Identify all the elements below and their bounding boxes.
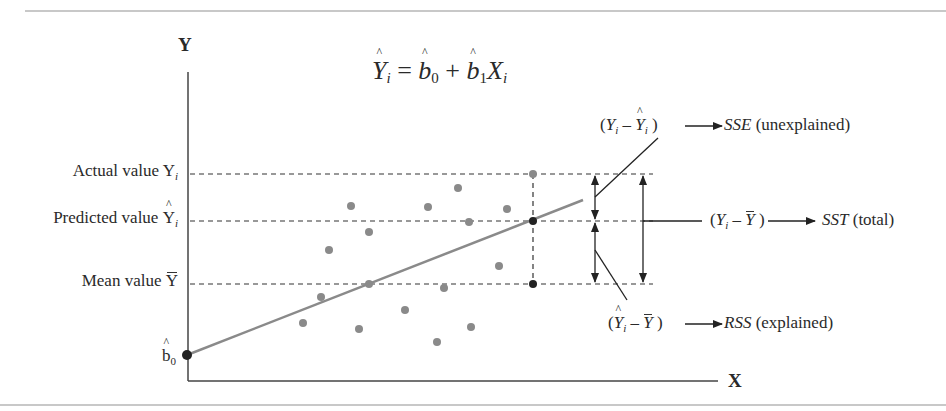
regression-line <box>187 200 583 355</box>
sse-expression: (Yi – Yi ) <box>600 115 658 136</box>
sse-term: SSE <box>724 115 751 134</box>
intercept-label: b0 <box>162 346 176 367</box>
sse-desc: (unexplained) <box>756 115 850 134</box>
mean-value-label: Mean value Y <box>82 271 178 291</box>
rss-term: RSS <box>724 313 751 332</box>
scatter-points <box>299 170 537 346</box>
predicted-value-label: Predicted value Yi <box>53 208 178 229</box>
deviation-arrows <box>595 126 815 324</box>
regression-equation: Yi = b0 + b1Xi <box>372 56 507 87</box>
actual-value-label: Actual value Yi <box>73 161 178 182</box>
reference-lines <box>190 174 653 284</box>
rss-label: RSS (explained) <box>724 313 833 333</box>
y-axis-label: Y <box>178 34 192 56</box>
rss-desc: (explained) <box>756 313 833 332</box>
sst-label: SST (total) <box>822 210 894 230</box>
sse-label: SSE (unexplained) <box>724 115 850 135</box>
sst-term: SST <box>822 210 848 229</box>
rss-expression: (Yi – Y ) <box>608 313 663 334</box>
sst-desc: (total) <box>853 210 895 229</box>
sst-expression: (Yi – Y ) <box>710 210 765 231</box>
x-axis-label: X <box>728 370 742 392</box>
